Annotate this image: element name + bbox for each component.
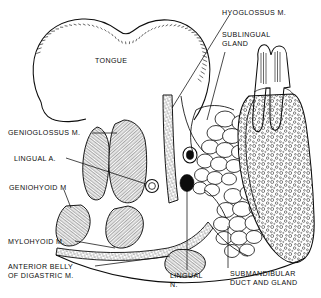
label-anterior-belly-line1: ANTERIOR BELLY: [8, 263, 73, 272]
geniohyoid-muscle: [56, 205, 143, 248]
lingual-artery: [146, 180, 159, 193]
label-lingual-artery: LINGUAL A.: [14, 155, 56, 164]
label-submandibular-line1: SUBMANDIBULAR: [230, 270, 296, 279]
anatomical-figure: TONGUE HYOGLOSSUS M. SUBLINGUAL GLAND GE…: [0, 0, 321, 298]
hyoglossus-muscle: [163, 95, 178, 203]
leader-hyoglossus: [172, 14, 230, 108]
label-tongue: TONGUE: [95, 57, 127, 66]
lingual-nerve: [180, 175, 194, 192]
label-geniohyoid: GENIOHYOID M: [9, 184, 66, 193]
label-hyoglossus: HYOGLOSSUS M.: [222, 9, 286, 18]
label-sublingual-gland-line1: SUBLINGUAL: [222, 31, 270, 40]
tooth-enamel-detail: [261, 51, 280, 84]
submandibular-duct: [183, 147, 197, 163]
label-anterior-belly-line2: OF DIGASTRIC M.: [8, 272, 74, 281]
label-lingual-nerve-line1: LINGUAL: [170, 272, 203, 281]
leader-geniohyoid: [64, 190, 71, 208]
tongue-structure: [33, 19, 210, 122]
figure-svg: [0, 0, 321, 298]
label-sublingual-gland-line2: GLAND: [222, 40, 248, 49]
label-lingual-nerve-line2: N.: [170, 281, 178, 290]
label-submandibular-line2: DUCT AND GLAND: [230, 279, 297, 288]
genioglossus-muscle: [83, 120, 147, 203]
label-genioglossus: GENIOGLOSSUS M.: [8, 129, 80, 138]
label-mylohyoid: MYLOHYOID M.: [8, 238, 65, 247]
